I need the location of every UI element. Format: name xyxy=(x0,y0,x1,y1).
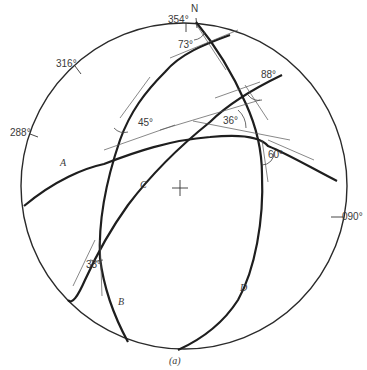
angle-label-33: 33° xyxy=(86,259,101,270)
azimuth-label-288: 288° xyxy=(10,127,31,138)
angle-label-60: 60° xyxy=(268,149,283,160)
great-circle-label-d: D xyxy=(239,282,248,293)
angle-label-88: 88° xyxy=(261,69,276,80)
azimuth-label-354: 354° xyxy=(168,14,189,25)
great-circle-d xyxy=(178,22,262,350)
primitive-circle xyxy=(21,23,347,349)
figure-caption: (a) xyxy=(169,355,181,367)
great-circle-label-a: A xyxy=(59,157,67,168)
azimuth-label-316: 316° xyxy=(56,58,77,69)
azimuth-label-090: 090° xyxy=(342,211,363,222)
great-circle-label-b: B xyxy=(118,296,124,307)
great-circle-label-c: C xyxy=(140,179,147,190)
tangent-lines xyxy=(73,24,314,296)
angle-label-36: 36° xyxy=(223,115,238,126)
center-cross xyxy=(172,180,188,196)
angle-label-45: 45° xyxy=(138,117,153,128)
angle-label-73: 73° xyxy=(178,39,193,50)
stereonet-diagram: N 354° 316° 288° 090° 73° 88° 45° 36° 60… xyxy=(0,0,367,370)
north-label: N xyxy=(191,3,198,14)
